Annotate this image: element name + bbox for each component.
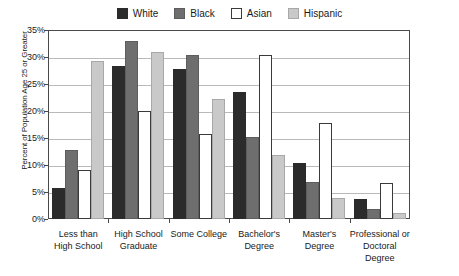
legend-item-black[interactable]: Black [174,8,214,19]
bar-asian[interactable] [380,183,393,219]
y-tick-label: 30% [3,53,45,62]
bar-white[interactable] [233,92,246,219]
y-axis: 0%5%10%15%20%25%30%35% [0,30,45,219]
bar-group [229,30,289,219]
x-tick-label: Professional orDoctoral Degree [350,228,410,264]
bar-white[interactable] [52,188,65,219]
x-tick-mark [289,219,290,223]
bar-group [289,30,349,219]
x-tick-mark [350,219,351,223]
bar-group [48,30,108,219]
legend-item-hispanic[interactable]: Hispanic [288,8,342,19]
bar-black[interactable] [186,55,199,219]
x-axis-labels: Less thanHigh SchoolHigh SchoolGraduateS… [48,228,410,264]
y-tick-label: 25% [3,80,45,89]
white-swatch-icon [117,8,128,19]
x-tick-mark [229,219,230,223]
x-tick-label-line: Bachelor's [229,228,289,240]
bar-hispanic[interactable] [212,99,225,219]
y-tick-label: 15% [3,134,45,143]
asian-swatch-icon [231,8,242,19]
bar-asian[interactable] [259,55,272,219]
bar-chart: White Black Asian Hispanic Percent of Po… [0,0,459,276]
x-tick-label-line: Degree [229,240,289,252]
bar-hispanic[interactable] [151,52,164,219]
x-tick-label-line: High School [48,240,108,252]
bar-group [108,30,168,219]
bar-white[interactable] [293,163,306,219]
bar-black[interactable] [246,137,259,219]
x-tick-label-line: Less than [48,228,108,240]
bar-group [350,30,410,219]
bar-white[interactable] [112,66,125,219]
x-tick-label-line: Some College [169,228,229,240]
x-axis [48,219,410,224]
y-tick-label: 5% [3,188,45,197]
x-tick-label: High SchoolGraduate [108,228,168,264]
bar-black[interactable] [367,209,380,219]
chart-legend: White Black Asian Hispanic [0,8,459,19]
black-swatch-icon [174,8,185,19]
y-tick-label: 0% [3,215,45,224]
x-tick-label-line: High School [108,228,168,240]
legend-item-asian[interactable]: Asian [231,8,272,19]
legend-label-hispanic: Hispanic [304,8,342,19]
x-tick-label: Bachelor'sDegree [229,228,289,264]
x-tick-mark [108,219,109,223]
x-tick-label-line: Professional or [350,228,410,240]
x-tick-label: Less thanHigh School [48,228,108,264]
legend-label-black: Black [190,8,214,19]
bar-hispanic[interactable] [91,61,104,219]
y-tick-label: 10% [3,161,45,170]
bar-hispanic[interactable] [332,198,345,219]
y-tick-label: 20% [3,107,45,116]
bar-black[interactable] [65,150,78,219]
bar-asian[interactable] [138,111,151,219]
x-tick-label: Master's Degree [289,228,349,264]
x-tick-label-line: Doctoral Degree [350,240,410,264]
bar-black[interactable] [306,182,319,219]
bar-group [169,30,229,219]
bar-white[interactable] [354,199,367,219]
bar-asian[interactable] [319,123,332,219]
x-tick-label: Some College [169,228,229,264]
bar-asian[interactable] [78,170,91,219]
x-tick-label-line: Master's Degree [289,228,349,252]
legend-label-asian: Asian [247,8,272,19]
bars-layer [48,30,410,219]
bar-asian[interactable] [199,134,212,219]
bar-white[interactable] [173,69,186,219]
bar-black[interactable] [125,41,138,219]
hispanic-swatch-icon [288,8,299,19]
bar-hispanic[interactable] [272,155,285,219]
x-tick-mark [169,219,170,223]
legend-item-white[interactable]: White [117,8,159,19]
legend-label-white: White [133,8,159,19]
x-tick-label-line: Graduate [108,240,168,252]
y-tick-label: 35% [3,26,45,35]
